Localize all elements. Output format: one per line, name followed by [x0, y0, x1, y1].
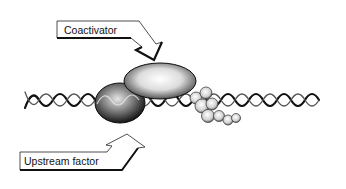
- bead-cluster: [190, 87, 241, 125]
- coactivator-protein: [124, 63, 196, 99]
- upstream-factor-label: Upstream factor: [24, 156, 99, 167]
- coactivator-label: Coactivator: [64, 25, 117, 36]
